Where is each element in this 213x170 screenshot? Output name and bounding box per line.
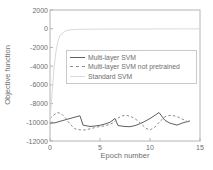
legend-item-label: Multi-layer SVM xyxy=(88,54,136,61)
y-tick-label: -12000 xyxy=(26,138,48,145)
legend-item-label: Multi-layer SVM not pretrained xyxy=(88,63,180,70)
legend-item: Multi-layer SVM xyxy=(70,54,195,61)
legend-item: Multi-layer SVM not pretrained xyxy=(70,63,195,70)
y-tick-label: 0 xyxy=(44,25,48,32)
legend-swatch-solid-line-icon xyxy=(70,74,85,79)
y-tick-label: -2000 xyxy=(30,44,48,51)
series-line-multi-layer-svm xyxy=(50,113,190,127)
legend-item-label: Standard SVM xyxy=(88,73,132,80)
y-tick-label: 2000 xyxy=(32,7,48,14)
y-tick-label: -8000 xyxy=(30,100,48,107)
x-tick-label: 0 xyxy=(48,144,52,151)
x-tick-label: 5 xyxy=(98,144,102,151)
y-tick-label: -6000 xyxy=(30,81,48,88)
x-axis-title: Epoch number xyxy=(50,151,200,160)
objective-function-chart: 05101520000-2000-4000-6000-8000-10000-12… xyxy=(0,0,213,170)
y-tick-label: -4000 xyxy=(30,63,48,70)
x-tick-label: 10 xyxy=(146,144,154,151)
legend: Multi-layer SVMMulti-layer SVM not pretr… xyxy=(66,50,197,84)
legend-swatch-solid-line-icon xyxy=(70,55,85,60)
x-tick-label: 15 xyxy=(196,144,204,151)
plot-canvas: 05101520000-2000-4000-6000-8000-10000-12… xyxy=(0,0,213,170)
y-tick-label: -10000 xyxy=(26,119,48,126)
y-axis-title: Objective function xyxy=(3,10,13,141)
legend-swatch-dashed-line-icon xyxy=(70,64,85,69)
series-line-multi-layer-svm-not-pretrained xyxy=(50,113,190,131)
legend-item: Standard SVM xyxy=(70,73,195,80)
